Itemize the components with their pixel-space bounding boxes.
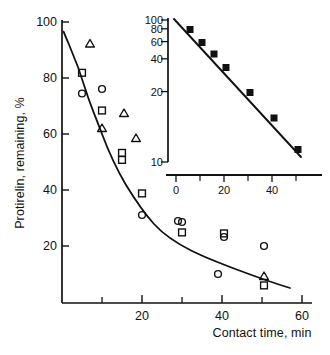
inset-series-markers	[187, 26, 302, 153]
data-point	[120, 109, 129, 117]
data-point	[271, 115, 278, 122]
inset-ytick-label-80: 80	[151, 23, 163, 35]
main-ytick-label-100: 100	[36, 15, 57, 29]
main-x-minor-ticks	[102, 297, 262, 303]
main-ytick-label-40: 40	[43, 183, 57, 197]
data-point	[261, 243, 268, 250]
data-point	[247, 89, 254, 96]
main-ytick-label-60: 60	[43, 127, 57, 141]
data-point	[199, 39, 206, 46]
data-point	[187, 26, 194, 33]
inset-xtick-label-40: 40	[266, 184, 278, 196]
data-point	[79, 90, 86, 97]
main-x-ticks	[142, 295, 302, 303]
x-axis-title: Contact time, min	[213, 326, 312, 340]
data-point	[175, 218, 182, 225]
inset-xtick-label-0: 0	[173, 184, 179, 196]
data-point	[119, 150, 126, 157]
data-point	[132, 134, 141, 142]
series-run-4-markers	[175, 218, 222, 278]
data-point	[261, 282, 268, 289]
data-point	[295, 146, 302, 153]
main-ytick-label-80: 80	[43, 71, 57, 85]
main-xtick-label-60: 60	[295, 309, 309, 323]
main-y-ticks	[62, 22, 69, 246]
main-xtick-label-20: 20	[135, 309, 149, 323]
inset-fit-line	[174, 19, 301, 157]
main-fit-curve	[64, 32, 290, 288]
data-point	[86, 40, 95, 48]
series-run-1-markers	[79, 86, 268, 250]
main-ytick-label-20: 20	[43, 239, 57, 253]
data-point	[99, 107, 106, 114]
data-point	[215, 271, 222, 278]
data-point	[223, 64, 230, 71]
data-point	[179, 229, 186, 236]
main-xtick-label-40: 40	[215, 309, 229, 323]
inset-ytick-label-40: 40	[151, 53, 163, 65]
inset-ytick-label-10: 10	[151, 156, 163, 168]
protirelin-degradation-figure: 100 80 60 40 20 20 40 60 Protirelin, rem…	[0, 0, 330, 355]
inset-x-ticks	[176, 175, 296, 182]
data-point	[211, 51, 218, 58]
y-axis-title: Protirelin, remaining, %	[13, 97, 27, 229]
inset-ytick-label-20: 20	[151, 86, 163, 98]
inset-plot: 100 80 60 40 20 10 0 20 40	[145, 14, 322, 196]
inset-xtick-label-20: 20	[218, 184, 230, 196]
data-point	[99, 86, 106, 93]
data-point	[119, 157, 126, 164]
inset-ytick-label-60: 60	[151, 36, 163, 48]
series-run-2-markers	[79, 69, 268, 288]
data-point	[260, 272, 269, 280]
data-point	[139, 190, 146, 197]
data-point	[139, 212, 146, 219]
figure-canvas: 100 80 60 40 20 20 40 60 Protirelin, rem…	[0, 0, 330, 355]
